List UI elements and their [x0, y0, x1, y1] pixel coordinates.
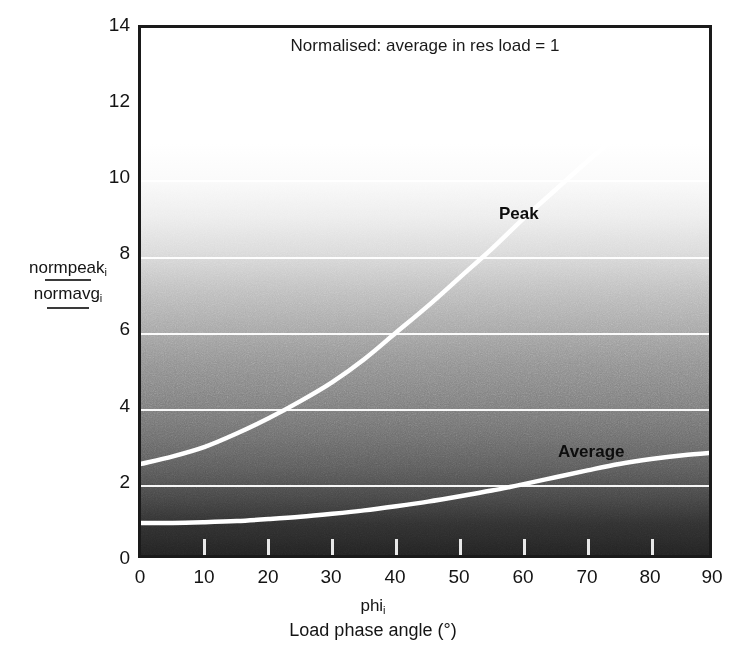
y-axis-numerator-subscript: i: [105, 266, 107, 278]
x-tick-label: 30: [320, 566, 341, 588]
series-annotation-average: Average: [558, 442, 624, 462]
fraction-bar-upper: [45, 279, 91, 281]
y-tick-label: 10: [109, 166, 130, 188]
curve-peak: [141, 66, 712, 464]
y-tick-label: 6: [119, 318, 130, 340]
x-axis-label: Load phase angle (°): [0, 620, 746, 641]
y-tick-label: 14: [109, 14, 130, 36]
plot-area: Normalised: average in res load = 1 Peak…: [138, 25, 712, 558]
x-tick-label: 10: [193, 566, 214, 588]
y-axis-label-numerator: normpeaki: [29, 258, 107, 284]
x-tick-label: 90: [701, 566, 722, 588]
y-tick-label: 2: [119, 471, 130, 493]
x-axis-tick-labels: 0 10 20 30 40 50 60 70 80 90: [0, 566, 746, 592]
y-tick-label: 4: [119, 395, 130, 417]
y-axis-numerator-text: normpeak: [29, 258, 105, 277]
x-tick-label: 20: [257, 566, 278, 588]
x-tick-label: 60: [512, 566, 533, 588]
x-tick-label: 50: [448, 566, 469, 588]
y-tick-label: 12: [109, 90, 130, 112]
x-tick-label: 0: [135, 566, 146, 588]
y-axis-denominator-subscript: i: [100, 292, 102, 304]
series-annotation-peak: Peak: [499, 204, 539, 224]
x-tick-label: 80: [639, 566, 660, 588]
x-axis-symbol-label: phii: [0, 596, 746, 616]
x-axis-symbol-text: phi: [360, 596, 383, 615]
y-axis-denominator-text: normavg: [34, 284, 100, 303]
x-axis-symbol-subscript: i: [383, 604, 385, 616]
data-curves: [141, 28, 712, 558]
chart-figure: 14 12 10 8 6 4 2 0 normpeaki normavgi: [0, 0, 746, 649]
y-axis-tick-labels: 14 12 10 8 6 4 2 0: [78, 0, 130, 649]
x-tick-label: 70: [576, 566, 597, 588]
y-axis-label-denominator: normavgi: [34, 284, 103, 309]
y-axis-label: normpeaki normavgi: [2, 258, 134, 310]
curve-average: [141, 453, 712, 523]
fraction-bar-lower: [47, 307, 89, 309]
x-tick-label: 40: [384, 566, 405, 588]
chart-title: Normalised: average in res load = 1: [141, 36, 709, 56]
